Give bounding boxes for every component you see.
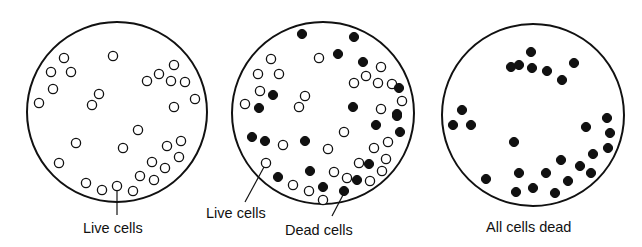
live-cell [97, 185, 106, 194]
live-cell [34, 98, 43, 107]
live-cell [373, 78, 382, 87]
dead-cell [603, 143, 612, 152]
dead-cell [448, 120, 457, 129]
live-cell [376, 62, 385, 71]
live-cell [160, 163, 169, 172]
live-cell [304, 186, 313, 195]
label-dead-cells-middle: Dead cells [285, 223, 353, 238]
dead-cell [605, 128, 614, 137]
dead-cell [481, 174, 490, 183]
live-cell [294, 102, 303, 111]
dead-cell [333, 49, 342, 58]
dead-cell [514, 168, 523, 177]
dead-cell [395, 127, 404, 136]
live-cell [87, 100, 96, 109]
live-cell [54, 158, 63, 167]
live-cell [147, 157, 156, 166]
live-cell [376, 104, 385, 113]
live-cell [154, 69, 163, 78]
dead-cell [541, 168, 550, 177]
dead-cell [586, 168, 595, 177]
dead-cell [550, 188, 559, 197]
cell-viability-diagram: Live cells Live cells Dead cells All cel… [0, 0, 642, 247]
live-cell [278, 140, 287, 149]
live-cell [66, 67, 75, 76]
dead-cell [557, 75, 566, 84]
live-cell [128, 186, 137, 195]
dead-cell [268, 90, 277, 99]
live-cell [318, 195, 327, 204]
live-cell [166, 76, 175, 85]
live-cell [266, 54, 275, 63]
live-cell [46, 67, 55, 76]
dish-all-dead [442, 24, 624, 206]
live-cell [94, 89, 103, 98]
live-cell [361, 71, 370, 80]
dead-cell [247, 132, 256, 141]
dead-cell [318, 182, 327, 191]
live-cell [176, 136, 185, 145]
live-cell [261, 158, 270, 167]
live-cell [369, 143, 378, 152]
live-cell [240, 99, 249, 108]
dead-cell [394, 83, 403, 92]
live-cell [71, 138, 80, 147]
leader-dead-cells-middle [332, 195, 343, 216]
live-cell [81, 178, 90, 187]
live-cell [180, 77, 189, 86]
live-cell [190, 94, 199, 103]
live-cell [253, 69, 262, 78]
live-cell [354, 158, 363, 167]
live-cell [48, 84, 57, 93]
live-cell [323, 144, 332, 153]
petri-dish-outline [27, 22, 207, 202]
dead-cell [364, 159, 373, 168]
dead-cell [260, 136, 269, 145]
live-cell [169, 60, 178, 69]
dead-cell [300, 136, 309, 145]
dead-cell [569, 58, 578, 67]
dead-cell [358, 57, 367, 66]
live-cell [349, 78, 358, 87]
live-cell [255, 86, 264, 95]
live-cell [383, 137, 392, 146]
dead-cell [349, 32, 358, 41]
dead-cell [339, 186, 348, 195]
label-live-cells-left: Live cells [83, 221, 143, 236]
dead-cell [371, 120, 380, 129]
live-cell [329, 167, 338, 176]
dead-cell [466, 120, 475, 129]
dead-cell [556, 155, 565, 164]
live-cell [381, 154, 390, 163]
dead-cell [514, 60, 523, 69]
live-cell [397, 96, 406, 105]
dead-cell [575, 161, 584, 170]
live-cell [288, 180, 297, 189]
dead-cell [527, 63, 536, 72]
label-all-cells-dead: All cells dead [486, 220, 571, 235]
live-cell [174, 152, 183, 161]
dead-cell [273, 172, 282, 181]
dead-cell [305, 166, 314, 175]
live-cell [108, 51, 117, 60]
dead-cell [352, 175, 361, 184]
live-cell [142, 76, 151, 85]
dish-all-live [27, 22, 207, 202]
dish-mixed [232, 22, 414, 205]
dead-cell [526, 47, 535, 56]
dead-cell [511, 187, 520, 196]
label-live-cells-middle: Live cells [206, 206, 266, 221]
live-cell [274, 69, 283, 78]
live-cell [59, 53, 68, 62]
dead-cell [602, 113, 611, 122]
dead-cell [392, 111, 401, 120]
live-cell [162, 141, 171, 150]
live-cell [133, 125, 142, 134]
live-cell [342, 173, 351, 182]
live-cell [169, 102, 178, 111]
live-cell [300, 91, 309, 100]
dead-cell [348, 102, 357, 111]
dead-cell [528, 183, 537, 192]
live-cell [365, 176, 374, 185]
dead-cell [542, 66, 551, 75]
